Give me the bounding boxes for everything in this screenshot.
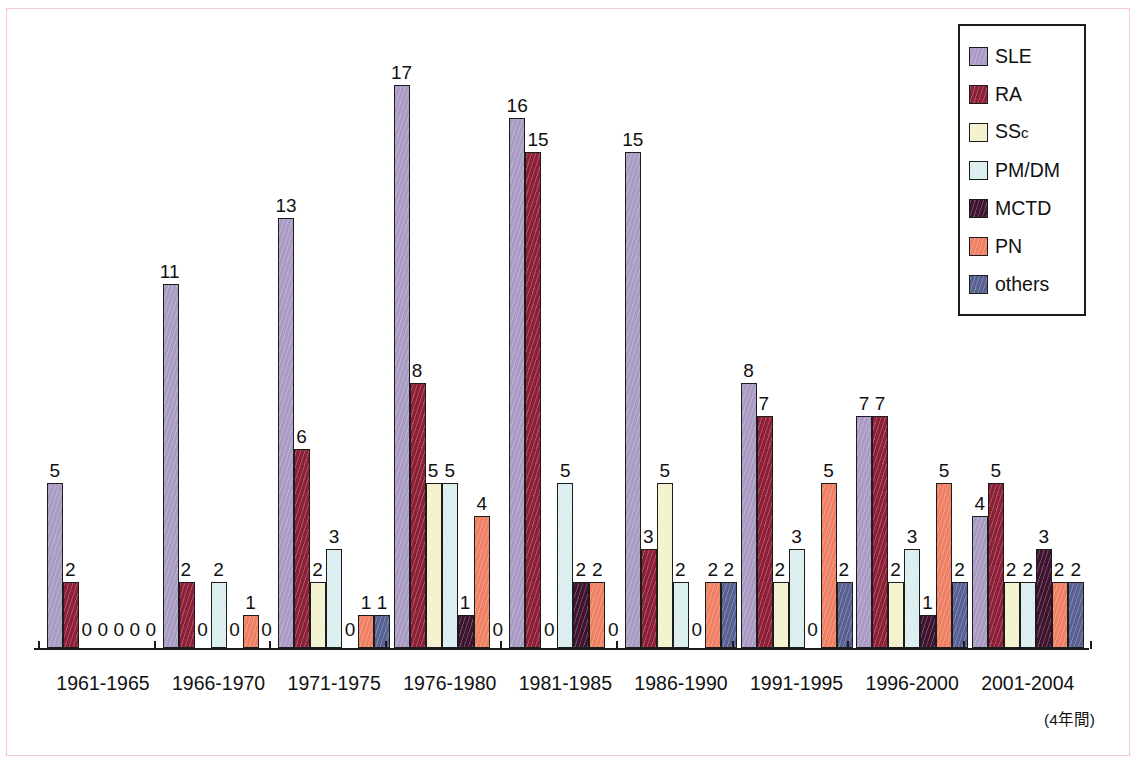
bar <box>243 615 259 648</box>
bar-value-label: 3 <box>791 527 802 546</box>
bar-value-label: 5 <box>50 461 61 480</box>
legend-label: SLE <box>995 46 1032 66</box>
bar-value-label: 0 <box>345 620 356 639</box>
legend-swatch-icon <box>969 47 988 66</box>
bar-value-label: 2 <box>312 560 323 579</box>
legend-swatch-icon <box>969 199 988 218</box>
x-axis-line <box>34 648 1089 650</box>
bar-value-label: 13 <box>275 196 296 215</box>
bar-value-label: 0 <box>807 620 818 639</box>
bar <box>1052 582 1068 648</box>
bar <box>625 152 641 649</box>
legend-item-others: others <box>969 265 1084 303</box>
bar <box>705 582 721 648</box>
bar-value-label: 5 <box>560 461 571 480</box>
bar-value-label: 7 <box>859 394 870 413</box>
x-axis-label: 1976-1980 <box>387 673 513 693</box>
bar <box>904 549 920 648</box>
bar-value-label: 3 <box>643 527 654 546</box>
bar-value-label: 5 <box>444 461 455 480</box>
bar <box>394 85 410 648</box>
legend-item-pm-dm: PM/DM <box>969 151 1084 189</box>
bar <box>573 582 589 648</box>
bar <box>872 416 888 648</box>
bar-value-label: 1 <box>245 593 256 612</box>
legend-item-ssc: SSc <box>969 113 1084 151</box>
bar-value-label: 2 <box>954 560 965 579</box>
bar <box>1036 549 1052 648</box>
bar-value-label: 2 <box>213 560 224 579</box>
bar-value-label: 7 <box>759 394 770 413</box>
bar-value-label: 1 <box>460 593 471 612</box>
bar-value-label: 2 <box>724 560 735 579</box>
chart-figure: 5200000112020101362301117855140161505220… <box>0 0 1137 767</box>
bar-value-label: 2 <box>890 560 901 579</box>
bar <box>657 483 673 649</box>
bar-value-label: 0 <box>98 620 109 639</box>
bar-value-label: 0 <box>544 620 555 639</box>
bar-value-label: 2 <box>775 560 786 579</box>
bar <box>673 582 689 648</box>
bar <box>773 582 789 648</box>
axis-tick <box>616 641 618 649</box>
bar-value-label: 2 <box>839 560 850 579</box>
bar <box>294 449 310 648</box>
x-axis-label: 1966-1970 <box>156 673 282 693</box>
bar <box>410 383 426 648</box>
bar-value-label: 0 <box>82 620 93 639</box>
chart-legend: SLERASScPM/DMMCTDPNothers <box>958 24 1086 316</box>
bar-value-label: 2 <box>1070 560 1081 579</box>
axis-tick <box>154 641 156 649</box>
legend-item-ra: RA <box>969 75 1084 113</box>
axis-tick <box>847 641 849 649</box>
bar-value-label: 15 <box>527 130 548 149</box>
bar-value-label: 2 <box>592 560 603 579</box>
axis-tick <box>963 641 965 649</box>
bar <box>920 615 936 648</box>
bar-value-label: 2 <box>181 560 192 579</box>
legend-item-pn: PN <box>969 227 1084 265</box>
bar <box>821 483 837 649</box>
legend-label: PN <box>995 236 1022 256</box>
axis-tick <box>1090 641 1092 649</box>
bar-value-label: 2 <box>675 560 686 579</box>
bar-value-label: 5 <box>428 461 439 480</box>
bar <box>557 483 573 649</box>
bar <box>589 582 605 648</box>
legend-swatch-icon <box>969 161 988 180</box>
legend-item-mctd: MCTD <box>969 189 1084 227</box>
bar-value-label: 2 <box>1022 560 1033 579</box>
bar-value-label: 2 <box>1006 560 1017 579</box>
x-axis-label: 2001-2004 <box>965 673 1091 693</box>
legend-swatch-icon <box>969 123 988 142</box>
bar-value-label: 0 <box>146 620 157 639</box>
bar-value-label: 0 <box>130 620 141 639</box>
bar-value-label: 2 <box>1054 560 1065 579</box>
bar-value-label: 8 <box>743 361 754 380</box>
bar-value-label: 2 <box>65 560 76 579</box>
bar <box>952 582 968 648</box>
bar-value-label: 2 <box>575 560 586 579</box>
bar-value-label: 3 <box>907 527 918 546</box>
legend-label: SSc <box>995 121 1029 143</box>
bar-value-label: 6 <box>296 427 307 446</box>
bar <box>972 516 988 648</box>
bar-value-label: 4 <box>974 494 985 513</box>
bar-value-label: 17 <box>391 63 412 82</box>
bar <box>988 483 1004 649</box>
bar-value-label: 0 <box>114 620 125 639</box>
legend-label: RA <box>995 84 1022 104</box>
bar <box>163 284 179 648</box>
bar <box>721 582 737 648</box>
x-axis-label: 1996-2000 <box>849 673 975 693</box>
bar <box>525 152 541 649</box>
bar-value-label: 2 <box>708 560 719 579</box>
bar <box>358 615 374 648</box>
bar <box>757 416 773 648</box>
bar <box>474 516 490 648</box>
bar-value-label: 0 <box>608 620 619 639</box>
period-note: (4年間) <box>1044 707 1095 729</box>
bar <box>374 615 390 648</box>
bar <box>442 483 458 649</box>
legend-swatch-icon <box>969 237 988 256</box>
